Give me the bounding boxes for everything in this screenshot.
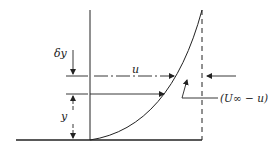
y-label: y — [60, 110, 68, 123]
velocity-deficit-label: (U∞ − u) — [220, 92, 268, 104]
label-leader-line — [182, 80, 218, 98]
u-label: u — [132, 63, 139, 76]
boundary-layer-diagram: δy u y (U∞ − u) — [0, 0, 276, 149]
velocity-profile-curve — [90, 10, 202, 140]
delta-y-label: δy — [54, 47, 68, 60]
